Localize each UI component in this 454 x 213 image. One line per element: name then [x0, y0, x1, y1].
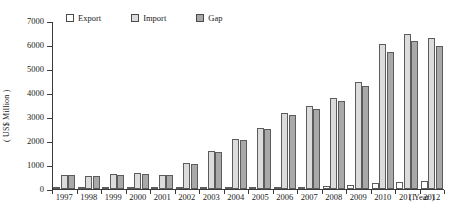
x-axis-tick-label: 2001: [154, 193, 171, 202]
bar-group: [396, 22, 418, 189]
bar-gap: [313, 109, 320, 189]
bar-import: [85, 176, 92, 189]
bar-gap: [289, 115, 296, 189]
bar-import: [330, 98, 337, 189]
bar-group: [347, 22, 369, 189]
bar-export: [53, 187, 60, 189]
legend-swatch-export-icon: [66, 14, 74, 22]
bar-export: [78, 187, 85, 189]
y-axis-tick-label: 3000: [27, 113, 44, 122]
bar-gap: [68, 175, 75, 189]
bar-gap: [240, 140, 247, 189]
y-axis-tick-label: 1000: [27, 161, 44, 170]
y-axis-tick-label: 2000: [27, 137, 44, 146]
bar-gap: [362, 86, 369, 189]
x-axis-tick-label: 2006: [276, 193, 293, 202]
bar-import: [306, 106, 313, 189]
x-axis-tick: [297, 190, 298, 194]
bar-gap: [117, 175, 124, 189]
y-axis-tick: 3000: [47, 118, 52, 119]
x-axis-tick-label: 2007: [301, 193, 318, 202]
bar-gap: [338, 101, 345, 189]
y-axis-tick: 2000: [47, 142, 52, 143]
x-axis-tick: [52, 190, 53, 194]
bar-group: [102, 22, 124, 189]
bar-export: [421, 181, 428, 189]
bar-group: [372, 22, 394, 189]
y-axis-tick-label: 4000: [27, 89, 44, 98]
x-axis-tick: [224, 190, 225, 194]
x-axis-tick-label: 2008: [325, 193, 342, 202]
bar-export: [347, 185, 354, 189]
x-axis-tick: [248, 190, 249, 194]
bar-import: [110, 174, 117, 189]
bar-gap: [215, 152, 222, 189]
x-axis-tick-label: 1999: [105, 193, 122, 202]
x-axis-tick: [273, 190, 274, 194]
bar-import: [281, 113, 288, 189]
x-axis-tick-label: 2002: [178, 193, 195, 202]
x-axis-tick: [346, 190, 347, 194]
bar-gap: [264, 129, 271, 189]
x-axis-tick-label: 1997: [56, 193, 73, 202]
bar-export: [298, 187, 305, 189]
x-axis-tick: [150, 190, 151, 194]
y-axis-tick-label: 7000: [27, 17, 44, 26]
bar-export: [225, 187, 232, 189]
x-axis-title: ( Year ): [409, 193, 434, 202]
bar-import: [379, 44, 386, 189]
x-axis-tick: [322, 190, 323, 194]
bar-group: [421, 22, 443, 189]
x-axis-tick: [175, 190, 176, 194]
bar-import: [232, 139, 239, 189]
y-axis-tick: 7000: [47, 22, 52, 23]
bar-gap: [436, 46, 443, 189]
x-axis-tick: [444, 190, 445, 194]
x-axis-tick-label: 2010: [374, 193, 391, 202]
bar-group: [323, 22, 345, 189]
y-axis-tick: 5000: [47, 70, 52, 71]
bar-export: [127, 187, 134, 189]
bar-gap: [387, 52, 394, 189]
bar-export: [249, 187, 256, 189]
legend-swatch-gap-icon: [196, 14, 204, 22]
x-axis-tick-label: 2003: [203, 193, 220, 202]
plot-area: 01000200030004000500060007000: [52, 22, 444, 190]
bar-import: [159, 175, 166, 189]
bar-group: [274, 22, 296, 189]
x-axis-tick: [126, 190, 127, 194]
bar-import: [428, 38, 435, 189]
y-axis-title: ( US$ Million ): [2, 22, 14, 142]
x-axis-tick-label: 2009: [350, 193, 367, 202]
bar-group: [78, 22, 100, 189]
bar-gap: [142, 174, 149, 189]
bar-import: [404, 34, 411, 189]
bar-group: [298, 22, 320, 189]
y-axis-tick: 4000: [47, 94, 52, 95]
bar-export: [176, 187, 183, 189]
bar-group: [225, 22, 247, 189]
x-axis-tick: [77, 190, 78, 194]
bar-import: [257, 128, 264, 189]
bar-chart: Export Import Gap ( US$ Million ) 010002…: [0, 0, 454, 213]
bar-gap: [411, 41, 418, 189]
bar-export: [372, 183, 379, 189]
y-axis-tick: 1000: [47, 166, 52, 167]
bar-gap: [93, 176, 100, 189]
x-axis-tick: [101, 190, 102, 194]
bar-export: [323, 186, 330, 189]
x-axis-tick-label: 2004: [227, 193, 244, 202]
legend-swatch-import-icon: [131, 14, 139, 22]
bar-import: [355, 82, 362, 189]
y-axis-tick-label: 5000: [27, 65, 44, 74]
bar-group: [176, 22, 198, 189]
x-axis-tick-label: 2000: [129, 193, 146, 202]
bar-export: [274, 187, 281, 189]
bar-group: [151, 22, 173, 189]
x-axis-tick-label: 2005: [252, 193, 269, 202]
bar-gap: [166, 175, 173, 189]
bar-import: [134, 173, 141, 189]
bar-import: [208, 151, 215, 189]
y-axis-tick-label: 6000: [27, 41, 44, 50]
bar-export: [200, 187, 207, 189]
